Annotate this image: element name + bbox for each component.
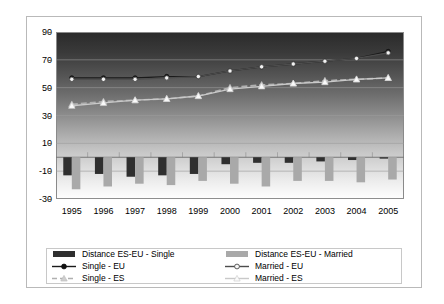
bar-single: [190, 157, 199, 174]
bar-single: [253, 157, 262, 163]
bar-swatch-icon: [53, 251, 75, 257]
legend-swatch-line-icon: [224, 273, 250, 284]
marker-circle-open: [323, 59, 327, 63]
legend-item-label: Single - ES: [82, 273, 125, 284]
x-axis-tick-label: 2003: [315, 206, 335, 216]
x-axis-tick-label: 2004: [347, 206, 367, 216]
y-axis-tick-mark: [48, 199, 52, 200]
legend-item: Married - EU: [224, 260, 397, 272]
bar-single: [348, 157, 357, 160]
x-axis-tick-label: 1999: [188, 206, 208, 216]
legend-line-marker-icon: [51, 273, 77, 284]
bar-married: [72, 157, 81, 189]
legend-line-marker-icon: [224, 273, 250, 284]
y-axis-tick-mark: [48, 116, 52, 117]
plot-area-wrapper: [56, 32, 404, 199]
legend-swatch-line-icon: [51, 261, 77, 272]
bar-married: [388, 157, 397, 179]
bar-married: [325, 157, 334, 181]
x-axis-tick-label: 1996: [93, 206, 113, 216]
chart-screenshot: 9070503010-10-30 19951996199719981999200…: [0, 0, 444, 304]
legend-line-marker-icon: [51, 261, 77, 272]
y-axis-tick-mark: [48, 32, 52, 33]
legend-item: Single - ES: [51, 272, 224, 284]
legend-item: Married - ES: [224, 272, 397, 284]
x-axis-tick-label: 1997: [125, 206, 145, 216]
x-axis-labels: 1995199619971998199920002001200220032004…: [56, 206, 404, 222]
x-axis-tick-label: 2000: [220, 206, 240, 216]
legend-line-marker-icon: [224, 261, 250, 272]
bar-married: [103, 157, 112, 186]
legend-item: Single - EU: [51, 260, 224, 272]
bar-single: [158, 157, 167, 175]
legend-item-label: Distance ES-EU - Married: [255, 249, 353, 260]
marker-circle-open: [228, 69, 232, 73]
y-axis-labels: 9070503010-10-30: [26, 32, 52, 199]
marker-circle-open: [354, 56, 358, 60]
chart-canvas: [56, 32, 404, 199]
legend-item-label: Distance ES-EU - Single: [82, 249, 175, 260]
marker-circle-open: [101, 77, 105, 81]
bar-married: [167, 157, 176, 185]
x-axis-tick-label: 1995: [62, 206, 82, 216]
bar-married: [198, 157, 207, 181]
bar-married: [135, 157, 144, 183]
bar-single: [221, 157, 230, 164]
marker-circle-open: [165, 76, 169, 80]
line-series: [72, 53, 388, 79]
x-axis-tick-label: 2005: [378, 206, 398, 216]
y-axis-tick-mark: [48, 171, 52, 172]
legend-swatch-line-icon: [51, 273, 77, 284]
bar-married: [230, 157, 239, 183]
bar-single: [127, 157, 136, 176]
legend-item: Distance ES-EU - Married: [224, 248, 397, 260]
legend-item-label: Married - ES: [255, 273, 303, 284]
x-axis-tick-label: 2001: [252, 206, 272, 216]
marker-circle-open: [386, 51, 390, 55]
bar-single: [285, 157, 294, 163]
marker-circle-open: [70, 77, 74, 81]
marker-circle-open: [196, 74, 200, 78]
line-series: [72, 51, 388, 77]
marker-circle-open: [133, 77, 137, 81]
legend-item: Distance ES-EU - Single: [51, 248, 224, 260]
bar-single: [380, 157, 389, 158]
x-axis-tick-label: 1998: [157, 206, 177, 216]
bar-married: [293, 157, 302, 181]
bar-married: [262, 157, 271, 186]
bar-single: [316, 157, 325, 161]
bar-married: [357, 157, 366, 182]
bar-single: [63, 157, 72, 175]
legend-swatch-bar-dark-icon: [51, 249, 77, 260]
marker-circle-open: [259, 65, 263, 69]
legend-swatch-line-icon: [224, 261, 250, 272]
y-axis-tick-mark: [48, 143, 52, 144]
y-axis-tick-mark: [48, 88, 52, 89]
legend-item-label: Married - EU: [255, 261, 303, 272]
chart-legend: Distance ES-EU - SingleDistance ES-EU - …: [46, 248, 402, 284]
bar-single: [95, 157, 104, 174]
legend-item-label: Single - EU: [82, 261, 125, 272]
x-axis-tick-label: 2002: [283, 206, 303, 216]
marker-circle-open: [291, 62, 295, 66]
bar-swatch-icon: [226, 251, 248, 257]
legend-swatch-bar-gray-icon: [224, 249, 250, 260]
y-axis-tick-mark: [48, 60, 52, 61]
